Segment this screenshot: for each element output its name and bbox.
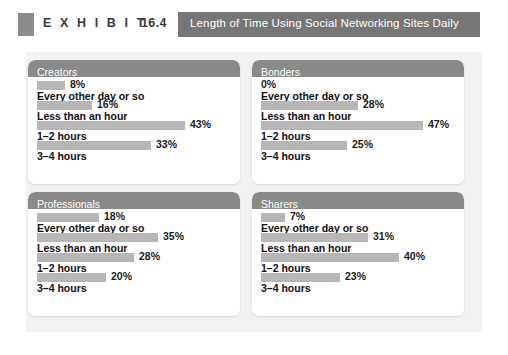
exhibit-number: 16.4 [141, 16, 167, 30]
chart-row: 7% Every other day or so [252, 213, 464, 233]
chart-row: 8% Every other day or so [28, 81, 240, 101]
chart-row: 20% 3–4 hours [28, 273, 240, 293]
chart-row: 23% 3–4 hours [252, 273, 464, 293]
panel-creators: Creators 8% Every other day or so 16% Le… [28, 60, 240, 184]
bar [37, 141, 151, 150]
bar-line: 20% [37, 273, 240, 282]
chart-row: 28% 1–2 hours [28, 253, 240, 273]
exhibit-header: E X H I B I T 16.4 Length of Time Using … [0, 0, 508, 46]
panel-body: 0% Every other day or so 28% Less than a… [252, 77, 464, 184]
bar [261, 253, 399, 262]
panel-bonders: Bonders 0% Every other day or so 28% Les… [252, 60, 464, 184]
chart-row: 18% Every other day or so [28, 213, 240, 233]
bar-line: 0% [261, 81, 464, 90]
bar-value: 16% [97, 98, 118, 110]
bar-line: 23% [261, 273, 464, 282]
panel-header-creators: Creators [28, 60, 240, 77]
bar [261, 213, 285, 222]
bar [261, 121, 423, 130]
bar-value: 8% [70, 78, 85, 90]
bar-value: 23% [345, 270, 366, 282]
square-marker-icon [18, 13, 34, 36]
panel-header-sharers: Sharers [252, 192, 464, 209]
panel-body: 18% Every other day or so 35% Less than … [28, 209, 240, 316]
bar [37, 233, 158, 242]
bar-line: 47% [261, 121, 464, 130]
bar-value: 18% [104, 210, 125, 222]
bar-line: 40% [261, 253, 464, 262]
panel-professionals: Professionals 18% Every other day or so … [28, 192, 240, 316]
chart-row: 25% 3–4 hours [252, 141, 464, 161]
bar-line: 28% [37, 253, 240, 262]
bar [261, 273, 340, 282]
bar-value: 43% [190, 118, 211, 130]
panel-sharers: Sharers 7% Every other day or so 31% Les… [252, 192, 464, 316]
bar [37, 121, 185, 130]
row-label: 3–4 hours [37, 150, 240, 162]
exhibit-title-bar: Length of Time Using Social Networking S… [178, 12, 480, 37]
bar-value: 7% [290, 210, 305, 222]
bar [37, 213, 99, 222]
bar [261, 233, 368, 242]
bar-value: 25% [352, 138, 373, 150]
bar-value: 33% [156, 138, 177, 150]
chart-row: 35% Less than an hour [28, 233, 240, 253]
bar-value: 28% [139, 250, 160, 262]
bar-value: 28% [363, 98, 384, 110]
chart-row: 0% Every other day or so [252, 81, 464, 101]
panel-header-bonders: Bonders [252, 60, 464, 77]
exhibit-label: E X H I B I T [43, 16, 147, 30]
bar-line: 8% [37, 81, 240, 90]
row-label: 3–4 hours [261, 282, 464, 294]
bar-value: 47% [428, 118, 449, 130]
chart-row: 31% Less than an hour [252, 233, 464, 253]
panel-body: 8% Every other day or so 16% Less than a… [28, 77, 240, 184]
bar-line: 43% [37, 121, 240, 130]
panel-grid: Creators 8% Every other day or so 16% Le… [28, 60, 480, 326]
chart-row: 33% 3–4 hours [28, 141, 240, 161]
bar [37, 101, 92, 110]
bar-line: 28% [261, 101, 464, 110]
bar-value: 31% [373, 230, 394, 242]
bar-line: 33% [37, 141, 240, 150]
chart-row: 43% 1–2 hours [28, 121, 240, 141]
bar-value: 0% [261, 78, 276, 90]
bar-line: 7% [261, 213, 464, 222]
bar [37, 273, 106, 282]
panel-body: 7% Every other day or so 31% Less than a… [252, 209, 464, 316]
panel-header-professionals: Professionals [28, 192, 240, 209]
bar [261, 141, 347, 150]
bar-line: 18% [37, 213, 240, 222]
bar [261, 101, 358, 110]
row-label: 3–4 hours [37, 282, 240, 294]
bar-value: 35% [163, 230, 184, 242]
bar-line: 25% [261, 141, 464, 150]
bar [37, 253, 134, 262]
bar [37, 81, 65, 90]
bar-value: 20% [111, 270, 132, 282]
bar-line: 35% [37, 233, 240, 242]
bar-line: 31% [261, 233, 464, 242]
bar-line: 16% [37, 101, 240, 110]
exhibit-title: Length of Time Using Social Networking S… [190, 17, 459, 29]
bar-value: 40% [404, 250, 425, 262]
row-label: 3–4 hours [261, 150, 464, 162]
